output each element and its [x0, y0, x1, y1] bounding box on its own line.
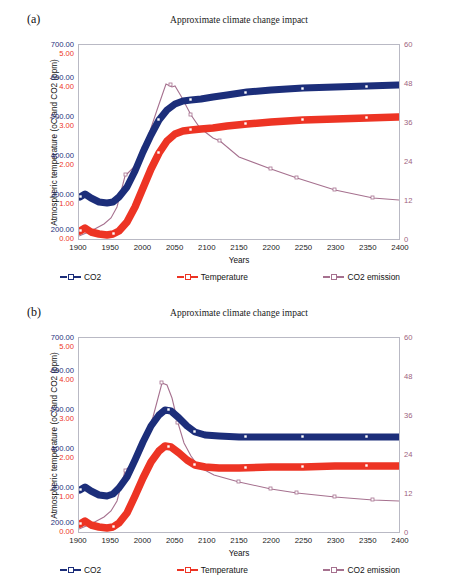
y-tick-co2-value: 500.00: [51, 405, 74, 414]
y-tick-temp-value: 5.00: [51, 342, 74, 351]
x-tick-2150: 2150: [230, 536, 247, 545]
plot-area-a: [78, 44, 400, 240]
legend-swatch-temperature-icon: [177, 273, 198, 281]
series-line-co2-emission-a: [79, 84, 399, 236]
y-tick-co2-value: 700.00: [51, 40, 74, 49]
series-markers-co2-emission-a: [124, 83, 374, 199]
legend-swatch-temperature-icon: [177, 566, 198, 574]
legend-label-co2-emission: CO2 emission: [347, 272, 400, 282]
x-tick-2400: 2400: [391, 536, 408, 545]
y-tick-temp-value: 1.00: [51, 199, 74, 208]
legend-item-temperature[interactable]: Temperature: [177, 565, 248, 575]
x-tick-2050: 2050: [166, 536, 183, 545]
y-tick-co2-value: 300.00: [51, 190, 74, 199]
y-tick-co2-value: 500.00: [51, 112, 74, 121]
y-tick-a-500: 500.003.00: [51, 112, 74, 130]
y-tick-temp-value: 3.00: [51, 121, 74, 130]
chart-title-b: Approximate climate change impact: [78, 308, 400, 318]
y-tick-co2-value: 400.00: [51, 444, 74, 453]
plot-svg-b: [79, 338, 399, 532]
x-tick-2000: 2000: [134, 536, 151, 545]
chart-title-a: Approximate climate change impact: [78, 15, 400, 25]
y-tick-b-400: 400.002.00: [51, 444, 74, 462]
x-tick-2300: 2300: [327, 536, 344, 545]
legend-b: CO2 Temperature CO2 emission: [60, 565, 400, 575]
x-tick-2300: 2300: [327, 243, 344, 252]
legend-a: CO2 Temperature CO2 emission: [60, 272, 400, 282]
y-tick-co2-value: 600.00: [51, 73, 74, 82]
legend-label-co2: CO2: [84, 272, 101, 282]
x-tick-2400: 2400: [391, 243, 408, 252]
y-right-tick-60: 60: [404, 333, 412, 342]
y-tick-temp-value: 0.00: [51, 234, 74, 243]
y-right-tick-24: 24: [404, 157, 412, 166]
legend-label-temperature: Temperature: [201, 565, 248, 575]
legend-label-co2-emission: CO2 emission: [347, 565, 400, 575]
series-line-temperature-b: [80, 446, 398, 528]
y-tick-a-200: 200.000.00: [51, 225, 74, 243]
y-tick-co2-value: 600.00: [51, 366, 74, 375]
y-right-tick-12: 12: [404, 196, 412, 205]
y-axis-left-b: Atmospheric temperature (oC)and CO2 (ppm…: [28, 333, 74, 537]
x-tick-2200: 2200: [263, 536, 280, 545]
y-right-tick-24: 24: [404, 450, 412, 459]
legend-item-co2-emission[interactable]: CO2 emission: [323, 272, 400, 282]
x-axis-title-a: Years: [78, 256, 400, 265]
y-tick-temp-value: 0.00: [51, 527, 74, 536]
x-tick-2100: 2100: [198, 243, 215, 252]
y-right-tick-36: 36: [404, 118, 412, 127]
legend-item-co2[interactable]: CO2: [60, 565, 101, 575]
y-tick-co2-value: 400.00: [51, 151, 74, 160]
y-right-tick-48: 48: [404, 79, 412, 88]
x-axis-a: 1900 1950 2000 2050 2100 2150 2200 2250 …: [78, 243, 400, 255]
x-tick-2250: 2250: [295, 536, 312, 545]
plot-area-b: [78, 337, 400, 533]
legend-item-co2-emission[interactable]: CO2 emission: [323, 565, 400, 575]
y-tick-temp-value: 2.00: [51, 453, 74, 462]
panel-label-a: (a): [27, 12, 40, 27]
y-tick-co2-value: 700.00: [51, 333, 74, 342]
y-tick-b-300: 300.001.00: [51, 483, 74, 501]
chart-panel-b: (b) Approximate climate change impact At…: [0, 293, 458, 586]
x-tick-2150: 2150: [230, 243, 247, 252]
y-tick-b-200: 200.000.00: [51, 518, 74, 536]
y-tick-b-700: 700.005.00: [51, 333, 74, 351]
series-line-co2-a: [80, 85, 398, 203]
x-tick-2000: 2000: [134, 243, 151, 252]
y-tick-co2-value: 200.00: [51, 225, 74, 234]
legend-label-temperature: Temperature: [201, 272, 248, 282]
y-right-tick-60: 60: [404, 40, 412, 49]
legend-swatch-co2-emission-icon: [323, 566, 344, 574]
plot-svg-a: [79, 45, 399, 239]
y-axis-right-a: Gloabl carbon dioxide emissions, billion…: [404, 40, 424, 244]
x-tick-2050: 2050: [166, 243, 183, 252]
legend-item-co2[interactable]: CO2: [60, 272, 101, 282]
y-tick-a-700: 700.005.00: [51, 40, 74, 58]
x-tick-2250: 2250: [295, 243, 312, 252]
y-tick-temp-value: 5.00: [51, 49, 74, 58]
panel-label-b: (b): [27, 305, 41, 320]
y-tick-a-400: 400.002.00: [51, 151, 74, 169]
y-tick-co2-value: 300.00: [51, 483, 74, 492]
legend-item-temperature[interactable]: Temperature: [177, 272, 248, 282]
series-line-temperature-a: [80, 117, 398, 235]
y-tick-temp-value: 1.00: [51, 492, 74, 501]
x-tick-1950: 1950: [102, 536, 119, 545]
y-tick-a-600: 600.004.00: [51, 73, 74, 91]
y-tick-temp-value: 2.00: [51, 160, 74, 169]
legend-swatch-co2-icon: [60, 566, 81, 574]
y-tick-temp-value: 4.00: [51, 82, 74, 91]
x-tick-1900: 1900: [69, 243, 86, 252]
x-tick-2100: 2100: [198, 536, 215, 545]
x-axis-b: 1900 1950 2000 2050 2100 2150 2200 2250 …: [78, 536, 400, 548]
series-markers-temperature-a: [79, 116, 368, 235]
y-tick-b-500: 500.003.00: [51, 405, 74, 423]
y-axis-right-b: Gloabl carbon dioxide emissions, billion…: [404, 333, 424, 537]
y-right-tick-48: 48: [404, 372, 412, 381]
series-markers-co2-emission-b: [124, 381, 374, 501]
series-markers-co2-a: [79, 85, 368, 198]
y-tick-temp-value: 4.00: [51, 375, 74, 384]
x-axis-title-b: Years: [78, 549, 400, 558]
y-tick-b-600: 600.004.00: [51, 366, 74, 384]
y-tick-temp-value: 3.00: [51, 414, 74, 423]
